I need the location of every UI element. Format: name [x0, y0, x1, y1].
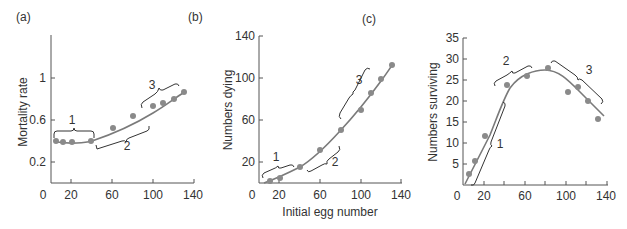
- brace-label: 3: [586, 63, 593, 77]
- y-tick-label: 20: [242, 155, 256, 169]
- panel-c: (c) Numbers surviving 0 20 60 100 140 5 …: [362, 12, 616, 203]
- x-tick-label: 20: [64, 188, 78, 202]
- x-tick-label: 60: [105, 188, 119, 202]
- y-tick-label: 5: [452, 157, 459, 171]
- y-tick-label: 25: [446, 73, 460, 87]
- x-ticks-c: 0 20 60 100 140: [454, 181, 617, 203]
- braces-b: 1 2 3: [262, 68, 370, 178]
- axes-c: [463, 38, 608, 185]
- figure: (a) Mortality rate 0 20 60 100 140 0.2 0…: [0, 0, 627, 229]
- y-tick-label: 30: [446, 52, 460, 66]
- x-ticks-b: 0 20 60 100 140: [249, 179, 412, 202]
- x-tick-label: 0: [40, 188, 47, 202]
- x-tick-label: 100: [351, 188, 371, 202]
- panel-label-a: (a): [16, 10, 31, 24]
- brace-label: 2: [332, 155, 339, 169]
- x-tick-label: 100: [556, 189, 576, 203]
- brace-label: 1: [497, 137, 504, 151]
- y-tick-label: 100: [235, 71, 255, 85]
- axes-b: [259, 36, 402, 183]
- y-ticks-c: 5 10 15 20 25 30 35: [446, 31, 467, 171]
- y-tick-label: 35: [446, 31, 460, 45]
- brace-label: 3: [149, 78, 156, 92]
- y-tick-label: 15: [446, 115, 460, 129]
- points-c: [466, 65, 601, 177]
- y-tick-label: 1: [39, 71, 46, 85]
- x-ticks-a: 0 20 60 100 140: [40, 179, 204, 202]
- brace-3-a: [141, 84, 179, 108]
- y-tick-label: 20: [446, 94, 460, 108]
- x-tick-label: 0: [249, 188, 256, 202]
- x-tick-label: 60: [518, 189, 532, 203]
- y-tick-label: 10: [446, 136, 460, 150]
- y-tick-label: 0.6: [29, 113, 46, 127]
- panel-label-b: (b): [188, 10, 203, 24]
- x-tick-label: 20: [272, 188, 286, 202]
- x-tick-label: 20: [477, 189, 491, 203]
- x-tick-label: 140: [391, 188, 411, 202]
- brace-3-c: [551, 61, 603, 104]
- panel-a: (a) Mortality rate 0 20 60 100 140 0.2 0…: [16, 10, 203, 202]
- x-axis-title: Initial egg number: [282, 205, 377, 219]
- brace-1-a: [54, 128, 94, 138]
- panel-b: (b) Numbers dying 0 20 60 100 140 20 60 …: [188, 10, 411, 219]
- brace-label: 2: [124, 139, 131, 153]
- x-tick-label: 0: [454, 189, 461, 203]
- y-axis-title-c: Numbers surviving: [426, 62, 440, 161]
- braces-c: 1 2 3: [471, 54, 603, 185]
- x-tick-label: 140: [183, 188, 203, 202]
- y-axis-title-b: Numbers dying: [221, 70, 235, 151]
- y-tick-label: 0.2: [29, 155, 46, 169]
- axes-a: [51, 35, 194, 183]
- x-tick-label: 140: [596, 189, 616, 203]
- panel-label-c: (c): [362, 12, 376, 26]
- y-tick-label: 140: [235, 29, 255, 43]
- fitted-curve-b: [264, 64, 393, 183]
- brace-label: 2: [503, 54, 510, 68]
- brace-label: 1: [273, 150, 280, 164]
- y-axis-title-a: Mortality rate: [16, 77, 30, 147]
- fitted-curve-c: [465, 70, 604, 184]
- x-tick-label: 100: [143, 188, 163, 202]
- y-tick-label: 60: [242, 113, 256, 127]
- brace-label: 1: [69, 113, 76, 127]
- x-tick-label: 60: [313, 188, 327, 202]
- brace-3-b: [339, 68, 370, 119]
- brace-label: 3: [356, 73, 363, 87]
